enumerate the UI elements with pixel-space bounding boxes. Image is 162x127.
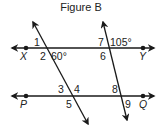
angle-4-label: 4 <box>74 83 80 95</box>
angle-105-label: 105° <box>110 36 132 48</box>
transversal-left <box>33 22 88 124</box>
point-x-label: X <box>19 50 28 62</box>
angle-2-label: 2 <box>40 50 46 62</box>
angle-7-label: 7 <box>98 36 104 48</box>
angle-6-label: 6 <box>100 50 106 62</box>
angle-9-label: 9 <box>125 98 131 110</box>
point-q-label: Q <box>139 98 147 110</box>
point-y-label: Y <box>139 50 147 62</box>
angle-5-label: 5 <box>66 98 72 110</box>
angle-1-label: 1 <box>34 36 40 48</box>
angle-3-label: 3 <box>58 83 64 95</box>
figure-title: Figure B <box>60 1 102 13</box>
angle-8-label: 8 <box>112 83 118 95</box>
point-p-label: P <box>20 98 27 110</box>
figure-b-diagram: Figure B X Y P Q 1 2 60° 7 105° 6 3 4 5 … <box>0 0 162 127</box>
angle-60-label: 60° <box>51 50 67 62</box>
